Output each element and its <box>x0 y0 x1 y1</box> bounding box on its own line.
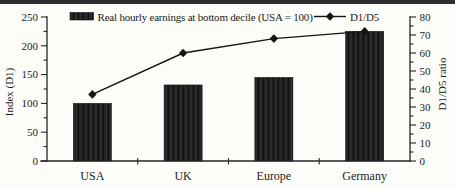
x-axis-category-label-europe: Europe <box>257 169 292 183</box>
figure: 25020015010050080706050403020100USAUKEur… <box>0 0 455 188</box>
left-axis-tick-label: 150 <box>22 68 39 80</box>
legend-diamond-icon <box>326 12 334 20</box>
x-axis-category-label-uk: UK <box>174 169 192 183</box>
right-axis-tick-label: 30 <box>420 101 432 113</box>
d1d5-point-uk <box>179 49 187 58</box>
x-axis-category-label-germany: Germany <box>342 169 387 183</box>
chart-plot-area: 25020015010050080706050403020100USAUKEur… <box>22 11 432 183</box>
x-axis-category-label-usa: USA <box>80 169 104 183</box>
bar-europe <box>255 77 293 161</box>
right-axis-tick-label: 60 <box>420 47 432 59</box>
d1d5-line <box>92 31 364 94</box>
legend-bar-swatch-icon <box>70 13 94 21</box>
right-axis-title: D1/D5 ratio <box>436 57 448 110</box>
left-axis-tick-label: 100 <box>22 97 39 109</box>
legend-bar-label: Real hourly earnings at bottom decile (U… <box>98 11 314 24</box>
bar-usa <box>73 103 111 161</box>
left-axis-tick-label: 250 <box>22 11 39 23</box>
right-axis-tick-label: 80 <box>420 11 432 23</box>
right-axis-tick-label: 0 <box>420 155 426 167</box>
d1d5-point-europe <box>270 34 278 43</box>
bar-uk <box>164 85 202 161</box>
left-axis-tick-label: 50 <box>27 126 39 138</box>
right-axis-tick-label: 70 <box>420 29 432 41</box>
right-axis-tick-label: 10 <box>420 137 432 149</box>
right-axis-tick-label: 40 <box>420 83 432 95</box>
left-axis-tick-label: 0 <box>33 155 39 167</box>
legend-line-label: D1/D5 <box>350 11 380 23</box>
bar-germany <box>346 31 384 161</box>
left-axis-title: Index (D1) <box>3 67 16 116</box>
legend: Real hourly earnings at bottom decile (U… <box>70 11 380 24</box>
left-axis-tick-label: 200 <box>22 40 39 52</box>
right-axis-tick-label: 50 <box>420 65 432 77</box>
d1d5-point-usa <box>88 90 96 99</box>
right-axis-tick-label: 20 <box>420 119 432 131</box>
earnings-dispersion-chart: 25020015010050080706050403020100USAUKEur… <box>0 0 455 188</box>
